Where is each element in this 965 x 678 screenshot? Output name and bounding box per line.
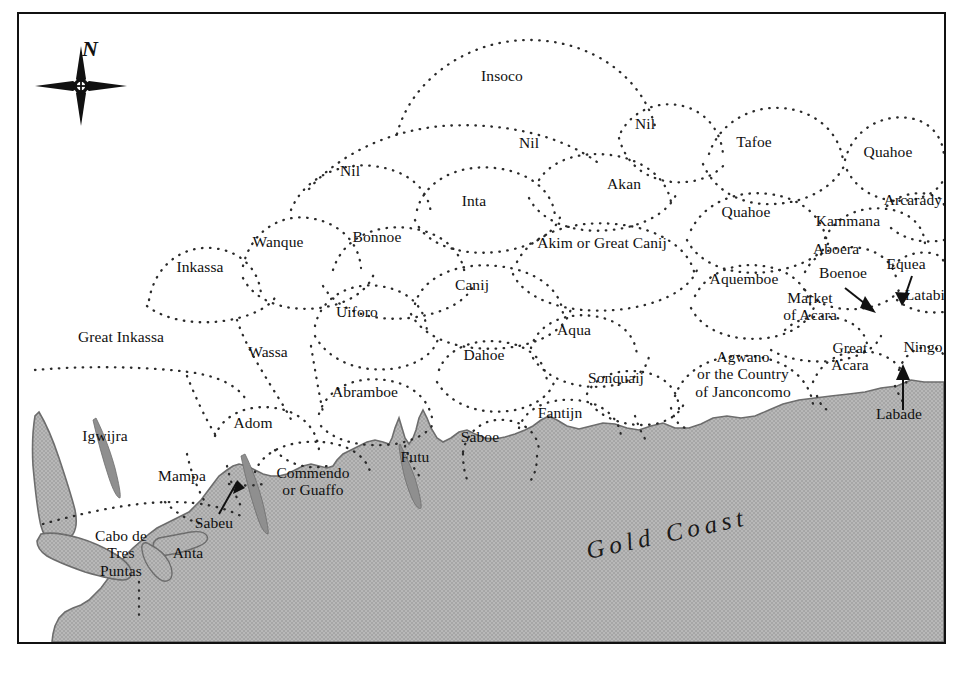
region-label-boenoe: Boenoe: [819, 264, 867, 281]
boundary-wassa-b: [311, 346, 323, 412]
boundary-great-inkassa: [35, 367, 245, 398]
region-label-ningo: Ningo: [903, 338, 942, 355]
boundary-quahoe-c-b: [687, 238, 831, 273]
boenoe-arrow: [845, 288, 876, 313]
boundary-arcarady-b: [891, 228, 944, 242]
region-label-akim-or-great-canij: Akim or Great Canij: [537, 234, 667, 251]
sea-region: [33, 380, 944, 642]
region-label-mampa: Mampa: [158, 467, 206, 484]
region-label-inkassa: Inkassa: [176, 258, 223, 275]
region-label-abramboe: Abramboe: [332, 383, 398, 400]
region-label-commendo-or-guaffo: Commendo or Guaffo: [276, 464, 349, 499]
cabo-bay: [33, 412, 77, 543]
sea-shape: [52, 380, 944, 642]
region-label-fantijn: Fantijn: [538, 404, 583, 421]
region-label-nil-upper-right: Nil: [635, 115, 655, 132]
region-label-dahoe: Dahoe: [464, 346, 505, 363]
boundary-canij-b: [411, 308, 571, 349]
region-label-sonquaij: Sonquaij: [588, 369, 644, 386]
region-label-latabij: Latabij: [905, 286, 946, 303]
region-label-labade: Labade: [876, 405, 922, 422]
boundary-tafoe: [709, 108, 843, 160]
compass-rose: N: [58, 36, 136, 132]
region-label-agwano-or-the-country-of-janconcomo: Agwano or the Country of Janconcomo: [695, 348, 791, 400]
region-label-aqua: Aqua: [557, 321, 591, 338]
region-label-sabeu: Sabeu: [195, 514, 233, 531]
region-label-wanque: Wanque: [253, 233, 304, 250]
boundary-akim-b: [513, 270, 697, 311]
map-frame: InsocoNilNilNilTafoeQuahoeAkanIntaArcara…: [17, 12, 946, 644]
region-label-bonnoe: Bonnoe: [353, 228, 402, 245]
region-label-nil-upper-centre: Nil: [519, 134, 539, 151]
region-label-great-inkassa: Great Inkassa: [78, 328, 164, 345]
region-label-quahoe-north: Quahoe: [864, 143, 913, 160]
region-label-futu: Futu: [401, 448, 430, 465]
region-label-insoco: Insoco: [481, 67, 523, 84]
region-label-adom: Adom: [233, 414, 272, 431]
region-label-uiforo: Uiforo: [336, 303, 378, 320]
region-label-anta: Anta: [173, 544, 204, 561]
region-label-aquemboe: Aquemboe: [710, 270, 779, 287]
historical-map-of-gold-coast: InsocoNilNilNilTafoeQuahoeAkanIntaArcara…: [0, 0, 965, 678]
region-label-wassa: Wassa: [248, 343, 288, 360]
compass-north-label: N: [82, 36, 98, 62]
region-label-arcarady: Arcarady: [884, 191, 942, 208]
region-label-nil-centre: Nil: [340, 162, 360, 179]
region-label-canij: Canij: [455, 276, 489, 293]
region-label-kammana: Kammana: [816, 212, 880, 229]
region-label-equea: Equea: [886, 255, 925, 272]
boundary-igwijra: [187, 376, 215, 434]
boundary-nil-c: [291, 165, 431, 214]
region-label-saboe: Saboe: [461, 428, 499, 445]
boundary-uiforo-b: [315, 334, 439, 370]
boundary-inkassa-b: [147, 294, 277, 322]
region-label-tafoe: Tafoe: [736, 133, 772, 150]
region-label-igwijra: Igwijra: [82, 427, 127, 444]
region-label-aboera: Aboera: [813, 240, 859, 257]
region-label-quahoe-centre: Quahoe: [722, 203, 771, 220]
region-label-great-acara: Great Acara: [831, 339, 869, 374]
boundary-insoco: [397, 40, 655, 134]
boundary-wassa: [237, 320, 293, 424]
boundary-akan: [539, 154, 671, 202]
region-label-inta: Inta: [462, 192, 487, 209]
region-label-market-of-acara: Market of Acara: [783, 289, 837, 324]
region-label-cabo-de-tres-puntas: Cabo de Tres Puntas: [95, 527, 147, 579]
boundary-akan-b: [529, 192, 677, 231]
boundary-tafoe-b: [703, 164, 845, 204]
region-label-akan: Akan: [607, 175, 641, 192]
boundary-sonquaij-b: [591, 400, 685, 425]
